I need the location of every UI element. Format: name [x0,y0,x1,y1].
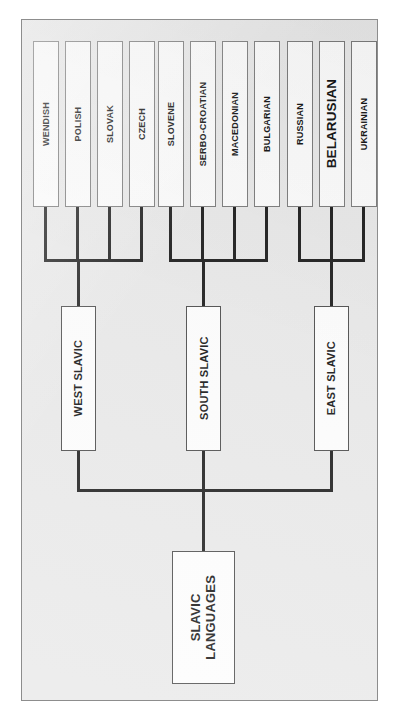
leaf-stub-ukrainian [362,206,365,262]
branch-label-east-slavic: EAST SLAVIC [325,341,337,415]
branch-box-west-slavic[interactable]: WEST SLAVIC [61,306,96,451]
west-group-bar [44,259,143,262]
leaf-label-bulgarian: BULGARIAN [262,96,272,152]
leaf-box-belarusian[interactable]: BELARUSIAN [319,41,345,207]
root-label-slavic-languages: SLAVIC LANGUAGES [188,575,219,660]
leaf-box-slovak[interactable]: SLOVAK [97,41,123,207]
leaf-label-slovene: SLOVENE [166,102,176,146]
leaf-stub-russian [298,206,301,262]
leaf-stub-belarusian [330,206,333,262]
root-drop [202,489,205,552]
leaf-label-serbo-croatian: SERBO-CROATIAN [198,82,208,167]
branch-box-east-slavic[interactable]: EAST SLAVIC [314,306,349,451]
leaf-stub-czech [140,206,143,262]
east-branch-drop [330,450,333,492]
leaf-box-wendish[interactable]: WENDISH [33,41,59,207]
leaf-box-slovene[interactable]: SLOVENE [158,41,184,207]
diagram-canvas: WENDISH POLISH SLOVAK CZECH SLOVENE SERB… [0,0,399,715]
root-box-slavic-languages[interactable]: SLAVIC LANGUAGES [172,551,235,684]
leaf-stub-polish [76,206,79,262]
root-label-line2: LANGUAGES [204,575,219,660]
leaf-stub-serbo-croatian [201,206,204,262]
leaf-stub-bulgarian [265,206,268,262]
south-group-bar [169,259,268,262]
leaf-label-ukrainian: UKRAINIAN [359,98,369,150]
leaf-box-russian[interactable]: RUSSIAN [287,41,313,207]
leaf-label-polish: POLISH [73,107,83,142]
leaf-label-russian: RUSSIAN [295,103,305,145]
leaf-label-macedonian: MACEDONIAN [230,92,240,156]
south-group-drop [202,259,205,306]
leaf-box-bulgarian[interactable]: BULGARIAN [254,41,280,207]
root-label-line1: SLAVIC [188,594,203,642]
leaf-box-ukrainian[interactable]: UKRAINIAN [351,41,377,207]
branch-box-south-slavic[interactable]: SOUTH SLAVIC [186,306,221,451]
west-group-drop [77,259,80,306]
leaf-label-czech: CZECH [137,108,147,140]
branch-label-west-slavic: WEST SLAVIC [72,340,84,417]
leaf-box-serbo-croatian[interactable]: SERBO-CROATIAN [190,41,216,207]
leaf-box-polish[interactable]: POLISH [65,41,91,207]
leaf-label-belarusian: BELARUSIAN [324,79,339,169]
leaf-box-czech[interactable]: CZECH [129,41,155,207]
leaf-stub-macedonian [233,206,236,262]
leaf-stub-wendish [44,206,47,262]
leaf-label-wendish: WENDISH [41,102,51,146]
leaf-stub-slovene [169,206,172,262]
leaf-box-macedonian[interactable]: MACEDONIAN [222,41,248,207]
east-group-drop [330,259,333,306]
west-branch-drop [77,450,80,492]
root-bar [77,489,333,492]
leaf-stub-slovak [108,206,111,262]
branch-label-south-slavic: SOUTH SLAVIC [197,337,209,420]
diagram-frame: WENDISH POLISH SLOVAK CZECH SLOVENE SERB… [21,19,378,701]
south-branch-drop [202,450,205,492]
leaf-label-slovak: SLOVAK [105,105,115,143]
